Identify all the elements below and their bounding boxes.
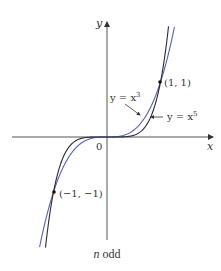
- point-label-neg1-neg1: (−1, −1): [59, 188, 103, 199]
- arrow-x-cubed: [125, 104, 140, 115]
- point-1-1: [158, 80, 162, 84]
- label-x-cubed: y = x3: [109, 91, 141, 103]
- label-x-fifth: y = x5: [166, 110, 198, 122]
- odd-power-functions-diagram: y x 0 (1, 1) (−1, −1) y = x3 y = x5: [0, 0, 221, 271]
- figure-caption: n odd: [0, 247, 214, 262]
- point-neg1-neg1: [52, 190, 56, 194]
- x-axis-label: x: [207, 140, 214, 153]
- y-axis-label: y: [95, 17, 103, 30]
- point-label-1-1: (1, 1): [164, 77, 191, 88]
- origin-label: 0: [96, 141, 102, 152]
